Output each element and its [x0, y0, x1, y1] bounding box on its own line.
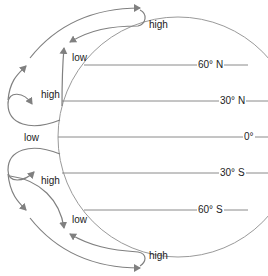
- circulation-diagram: [0, 0, 268, 276]
- arrow-polar-south-hook: [138, 252, 145, 266]
- arrow-polar-north-return: [70, 10, 145, 42]
- arrow-polar-north-upper: [30, 8, 140, 58]
- arrow-ferrel-north-up: [8, 66, 26, 100]
- pressure-label-bottom-high: high: [148, 251, 169, 261]
- pressure-label-equator-low: low: [23, 133, 40, 143]
- latitude-label-60n: 60° N: [197, 60, 224, 70]
- pressure-label-south-high: high: [40, 176, 61, 186]
- latitude-label-30n: 30° N: [219, 96, 246, 106]
- arrow-ferrel-north-curve: [62, 48, 64, 106]
- arrow-polar-south-lower: [30, 218, 140, 268]
- pressure-label-north-low: low: [71, 53, 88, 63]
- latitude-label-30s: 30° S: [219, 168, 246, 178]
- pressure-label-top-high: high: [148, 20, 169, 30]
- latitude-label-equator: 0°: [243, 132, 255, 142]
- latitude-label-60s: 60° S: [197, 205, 224, 215]
- pressure-label-north-high: high: [40, 90, 61, 100]
- pressure-label-south-low: low: [71, 215, 88, 225]
- arrow-polar-south-return: [70, 234, 138, 252]
